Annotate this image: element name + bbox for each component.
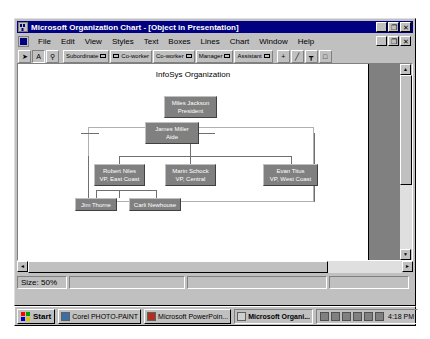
left-coworker-shape-icon (113, 54, 119, 58)
menu-item-text[interactable]: Text (139, 36, 164, 47)
org-box-president-name: Miles Jackson (172, 99, 210, 107)
connector-staff-bus (96, 190, 156, 191)
menu-item-chart[interactable]: Chart (225, 36, 255, 47)
menu-item-help[interactable]: Help (293, 36, 319, 47)
org-box-aide[interactable]: James Miller Aide (145, 122, 199, 144)
scroll-down-button[interactable]: ▼ (400, 249, 411, 260)
connector-staff-1-stem (96, 190, 97, 198)
vertical-scrollbar-thumb[interactable] (400, 75, 412, 185)
modem-icon[interactable] (364, 312, 373, 321)
left-coworker-tool-label: Co-worker (121, 53, 149, 60)
scroll-left-button[interactable]: ◄ (17, 261, 28, 272)
org-box-vp-west-name: Evan Titus (276, 167, 304, 175)
start-button[interactable]: Start (17, 309, 55, 324)
org-box-vp-east-title: VP, East Coast (100, 175, 140, 183)
line-tool[interactable]: ╱ (291, 50, 304, 63)
select-arrow-tool[interactable]: ➤ (18, 50, 31, 63)
speaker-icon[interactable] (320, 312, 329, 321)
taskbar-item-orgchart[interactable]: Microsoft Organi... (234, 309, 313, 324)
org-box-aide-name: James Miller (155, 125, 189, 133)
scheduler-icon[interactable] (375, 312, 384, 321)
right-coworker-tool[interactable]: Co-worker (153, 50, 195, 63)
taskbar-item-orgchart-label: Microsoft Organi... (248, 313, 310, 320)
chevron-left-icon: ◄ (20, 263, 25, 269)
display-icon[interactable] (342, 312, 351, 321)
photopaint-icon (61, 312, 70, 321)
minimize-button[interactable]: _ (376, 22, 387, 32)
zoom-tool[interactable]: ⚲ (46, 50, 59, 63)
connector-vp-central-stem (190, 156, 191, 164)
plus-icon: + (281, 53, 285, 60)
menu-item-lines[interactable]: Lines (196, 36, 225, 47)
clock[interactable]: 4:18 PM (388, 313, 414, 320)
application-window: Microsoft Organization Chart - [Object i… (14, 18, 416, 306)
assistant-tool[interactable]: Assistant (234, 50, 272, 63)
org-box-vp-west-title: VP, West Coast (270, 175, 311, 183)
menu-bar: File Edit View Styles Text Boxes Lines C… (17, 34, 413, 48)
menu-item-edit[interactable]: Edit (56, 36, 80, 47)
horizontal-scrollbar-thumb[interactable] (28, 261, 328, 273)
window-titlebar[interactable]: Microsoft Organization Chart - [Object i… (17, 21, 413, 33)
left-coworker-tool[interactable]: Co-worker (110, 50, 152, 63)
document-restore-button[interactable]: ❐ (388, 36, 399, 46)
connector-staff-2-stem (156, 190, 157, 198)
org-box-staff-1[interactable]: Jim Thorne (75, 198, 117, 211)
org-box-aide-title: Aide (166, 133, 178, 141)
connector-tool[interactable]: ┳ (305, 50, 318, 63)
system-tray: 4:18 PM (316, 309, 418, 324)
connector-frame-left (88, 156, 89, 202)
taskbar: Start Corel PHOTO-PAINT Microsoft PowerP… (14, 306, 416, 326)
manager-tool-label: Manager (199, 53, 223, 60)
org-box-president-title: President (178, 107, 203, 115)
menu-item-boxes[interactable]: Boxes (163, 36, 195, 47)
text-icon: A (36, 53, 41, 60)
menu-item-window[interactable]: Window (254, 36, 292, 47)
minimize-icon: _ (377, 24, 386, 32)
org-box-president[interactable]: Miles Jackson President (164, 96, 217, 118)
subordinate-shape-icon (100, 54, 106, 58)
org-box-staff-2[interactable]: Carli Newhouse (129, 198, 181, 211)
menu-item-file[interactable]: File (33, 36, 56, 47)
document-close-button[interactable]: ✕ (400, 36, 411, 46)
text-tool[interactable]: A (32, 50, 45, 63)
scroll-up-button[interactable]: ▲ (400, 64, 411, 75)
box-tool[interactable]: □ (319, 50, 332, 63)
windows-flag-icon (21, 312, 31, 321)
subordinate-tool-label: Subordinate (66, 53, 98, 60)
menu-item-view[interactable]: View (80, 36, 107, 47)
org-box-vp-east[interactable]: Robert Niles VP, East Coast (94, 164, 145, 186)
document-window-controls: _ ❐ ✕ (376, 36, 411, 46)
close-button[interactable]: ✕ (400, 22, 411, 32)
org-box-vp-west[interactable]: Evan Titus VP, West Coast (263, 164, 318, 186)
connector-vp-bus (119, 156, 291, 157)
vertical-scrollbar[interactable]: ▲ ▼ (400, 64, 412, 261)
add-box-tool[interactable]: + (277, 50, 290, 63)
status-bar: Size: 50% (17, 275, 413, 289)
org-box-vp-central[interactable]: Marin Schock VP, Central (165, 164, 216, 186)
document-icon[interactable] (18, 36, 29, 47)
horizontal-scrollbar[interactable]: ◄ ► (17, 261, 413, 273)
printer-icon[interactable] (353, 312, 362, 321)
toolbar: ➤ A ⚲ Subordinate Co-worker Co-worker Ma… (17, 49, 413, 63)
network-icon[interactable] (331, 312, 340, 321)
taskbar-item-powerpoint[interactable]: Microsoft PowerPoin... (144, 309, 231, 324)
scroll-right-button[interactable]: ► (402, 261, 413, 272)
taskbar-item-powerpoint-label: Microsoft PowerPoin... (158, 313, 228, 320)
document-client-area: InfoSys Organization (17, 63, 413, 261)
status-panel-3 (187, 276, 327, 289)
restore-button[interactable]: ❐ (388, 22, 399, 32)
restore-icon: ❐ (389, 37, 398, 46)
status-panel-4 (329, 276, 409, 289)
manager-shape-icon (224, 54, 230, 58)
window-title: Microsoft Organization Chart - [Object i… (31, 23, 376, 32)
taskbar-item-photopaint-label: Corel PHOTO-PAINT (72, 313, 138, 320)
org-chart-icon (18, 22, 28, 32)
document-minimize-button[interactable]: _ (376, 36, 387, 46)
subordinate-tool[interactable]: Subordinate (63, 50, 109, 63)
menu-item-styles[interactable]: Styles (107, 36, 139, 47)
chart-page[interactable]: InfoSys Organization (18, 64, 369, 260)
connector-vp-west-stem (291, 156, 292, 164)
status-size-panel: Size: 50% (17, 276, 67, 289)
taskbar-item-photopaint[interactable]: Corel PHOTO-PAINT (58, 309, 141, 324)
manager-tool[interactable]: Manager (196, 50, 234, 63)
